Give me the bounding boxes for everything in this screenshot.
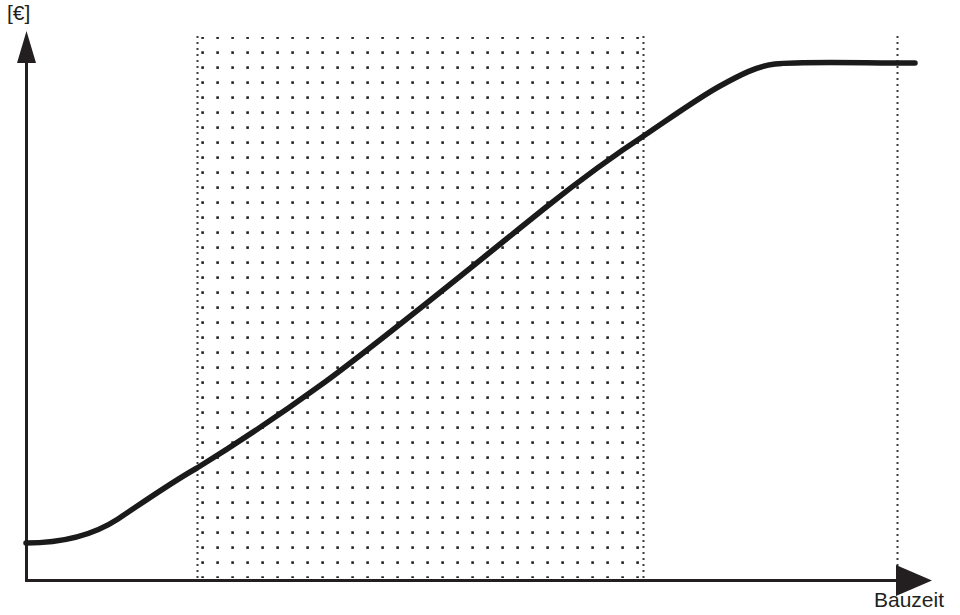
cost-over-construction-time-chart: [€] Bauzeit xyxy=(0,0,960,615)
y-axis-label: [€] xyxy=(7,1,30,24)
y-axis xyxy=(17,31,36,580)
chart-canvas xyxy=(0,0,960,615)
x-axis-label: Bauzeit xyxy=(874,588,944,611)
